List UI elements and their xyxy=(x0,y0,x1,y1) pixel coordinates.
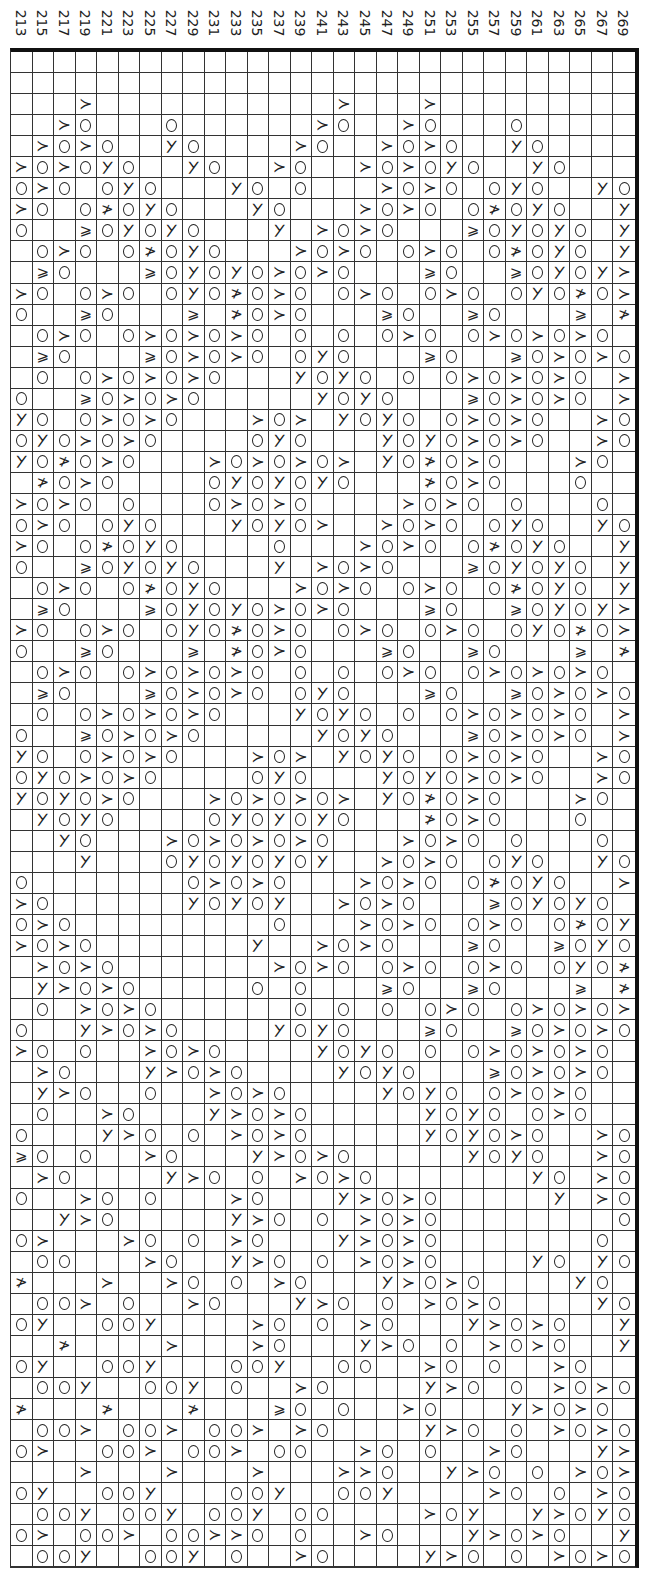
decrease-icon xyxy=(76,136,98,157)
chart-cell xyxy=(570,1125,592,1146)
chart-cell xyxy=(248,1399,270,1420)
chart-cell xyxy=(527,52,549,73)
yarn-over-icon xyxy=(570,726,592,747)
chart-cell xyxy=(205,768,227,789)
decrease-icon xyxy=(97,789,119,810)
yarn-over-icon xyxy=(248,768,270,789)
yarn-over-icon xyxy=(76,620,98,641)
chart-cell xyxy=(549,431,571,452)
chart-cell xyxy=(398,1546,420,1567)
yarn-over-icon xyxy=(33,789,55,810)
yarn-over-icon xyxy=(377,536,399,557)
chart-cell xyxy=(11,1504,33,1525)
decrease-icon xyxy=(312,115,334,136)
double-decrease-bar-icon xyxy=(183,641,205,662)
chart-cell xyxy=(463,178,485,199)
slanted-decrease-icon xyxy=(355,726,377,747)
chart-cell xyxy=(162,789,184,810)
yarn-over-icon xyxy=(76,1083,98,1104)
decrease-icon xyxy=(33,1167,55,1188)
double-decrease-icon xyxy=(420,789,442,810)
chart-cell xyxy=(291,726,313,747)
chart-cell xyxy=(291,52,313,73)
chart-cell xyxy=(11,241,33,262)
slanted-decrease-icon xyxy=(312,473,334,494)
yarn-over-icon xyxy=(377,873,399,894)
decrease-icon xyxy=(592,1546,614,1567)
chart-cell xyxy=(226,410,248,431)
chart-cell xyxy=(420,1146,442,1167)
slanted-decrease-icon xyxy=(226,894,248,915)
decrease-icon xyxy=(334,1167,356,1188)
yarn-over-icon xyxy=(592,284,614,305)
chart-cell xyxy=(140,873,162,894)
yarn-over-icon xyxy=(398,1062,420,1083)
yarn-over-icon xyxy=(183,1125,205,1146)
chart-cell xyxy=(183,1420,205,1441)
yarn-over-icon xyxy=(506,536,528,557)
chart-cell xyxy=(527,452,549,473)
slanted-decrease-icon xyxy=(463,1125,485,1146)
yarn-over-icon xyxy=(377,1315,399,1336)
yarn-over-icon xyxy=(441,410,463,431)
chart-cell xyxy=(119,1546,141,1567)
chart-cell xyxy=(377,262,399,283)
yarn-over-icon xyxy=(484,1104,506,1125)
decrease-icon xyxy=(592,683,614,704)
chart-cell xyxy=(334,768,356,789)
chart-cell xyxy=(140,494,162,515)
chart-cell xyxy=(11,957,33,978)
yarn-over-icon xyxy=(420,284,442,305)
chart-cell xyxy=(420,1062,442,1083)
chart-cell xyxy=(248,557,270,578)
decrease-icon xyxy=(570,1062,592,1083)
chart-cell xyxy=(441,873,463,894)
chart-cell xyxy=(183,999,205,1020)
yarn-over-icon xyxy=(506,999,528,1020)
chart-cell xyxy=(441,536,463,557)
chart-cell xyxy=(377,1125,399,1146)
chart-cell xyxy=(54,94,76,115)
chart-cell xyxy=(312,662,334,683)
slanted-decrease-icon xyxy=(592,262,614,283)
decrease-icon xyxy=(97,704,119,725)
yarn-over-icon xyxy=(441,810,463,831)
chart-cell xyxy=(312,1336,334,1357)
double-decrease-icon xyxy=(613,641,635,662)
chart-cell xyxy=(226,1315,248,1336)
slanted-decrease-icon xyxy=(162,220,184,241)
yarn-over-icon xyxy=(592,894,614,915)
slanted-decrease-icon xyxy=(226,262,248,283)
chart-cell xyxy=(355,768,377,789)
yarn-over-icon xyxy=(291,515,313,536)
double-decrease-bar-icon xyxy=(76,220,98,241)
slanted-decrease-icon xyxy=(527,157,549,178)
yarn-over-icon xyxy=(570,473,592,494)
yarn-over-icon xyxy=(97,1525,119,1546)
chart-cell xyxy=(33,220,55,241)
slanted-decrease-icon xyxy=(226,599,248,620)
yarn-over-icon xyxy=(119,241,141,262)
decrease-icon xyxy=(613,726,635,747)
chart-cell xyxy=(33,873,55,894)
decrease-icon xyxy=(420,241,442,262)
chart-cell xyxy=(205,726,227,747)
decrease-icon xyxy=(312,515,334,536)
yarn-over-icon xyxy=(312,1252,334,1273)
yarn-over-icon xyxy=(248,683,270,704)
chart-cell xyxy=(54,1441,76,1462)
chart-cell xyxy=(269,1462,291,1483)
chart-cell xyxy=(76,347,98,368)
yarn-over-icon xyxy=(527,220,549,241)
decrease-icon xyxy=(355,1525,377,1546)
slanted-decrease-icon xyxy=(183,1546,205,1567)
chart-cell xyxy=(527,789,549,810)
chart-cell xyxy=(334,431,356,452)
yarn-over-icon xyxy=(398,768,420,789)
decrease-icon xyxy=(226,1231,248,1252)
yarn-over-icon xyxy=(11,1441,33,1462)
yarn-over-icon xyxy=(76,831,98,852)
chart-cell xyxy=(291,915,313,936)
yarn-over-icon xyxy=(441,747,463,768)
yarn-over-icon xyxy=(248,262,270,283)
